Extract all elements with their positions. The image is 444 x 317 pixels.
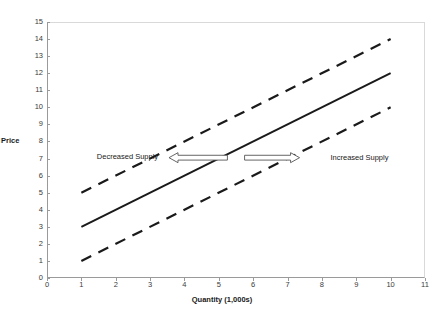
y-tick-label: 12 [21,69,43,77]
x-tick-mark [116,278,117,281]
x-axis-tick-labels: 01234567891011 [47,281,425,295]
y-tick-mark [47,107,50,108]
x-tick-label: 0 [35,281,59,289]
x-tick-mark [356,278,357,281]
supply-curve-original-supply [81,73,390,227]
x-tick-mark [150,278,151,281]
y-tick-mark [47,73,50,74]
y-tick-label: 15 [21,18,43,26]
x-tick-mark [391,278,392,281]
y-tick-label: 2 [21,240,43,248]
x-tick-label: 4 [172,281,196,289]
y-tick-mark [47,227,50,228]
x-tick-label: 11 [413,281,437,289]
y-tick-label: 10 [21,104,43,112]
x-tick-mark [47,278,48,281]
plot-area: Decreased SupplyIncreased Supply [47,22,425,278]
y-axis-title: Price [1,137,19,145]
y-tick-mark [47,141,50,142]
x-tick-label: 9 [344,281,368,289]
y-tick-mark [47,176,50,177]
y-tick-label: 8 [21,138,43,146]
y-tick-mark [47,261,50,262]
increased-supply-label: Increased Supply [331,154,389,162]
y-tick-label: 7 [21,155,43,163]
x-tick-label: 8 [310,281,334,289]
y-tick-mark [47,210,50,211]
x-tick-label: 1 [69,281,93,289]
y-tick-mark [47,90,50,91]
y-tick-label: 9 [21,121,43,129]
x-tick-mark [219,278,220,281]
y-tick-mark [47,244,50,245]
x-tick-label: 3 [138,281,162,289]
y-tick-mark [47,159,50,160]
supply-curve-decreased-supply [81,39,390,193]
x-tick-mark [81,278,82,281]
y-tick-label: 14 [21,35,43,43]
x-tick-label: 2 [104,281,128,289]
x-axis-title: Quantity (1,000s) [0,296,444,304]
y-tick-label: 5 [21,189,43,197]
x-tick-label: 5 [207,281,231,289]
x-tick-label: 7 [276,281,300,289]
y-tick-mark [47,193,50,194]
chart-screenshot: ... 0123456789101112131415 0123456789101… [0,0,444,317]
x-tick-mark [322,278,323,281]
decreased-supply-label: Decreased Supply [97,153,158,161]
x-tick-label: 10 [379,281,403,289]
x-tick-mark [184,278,185,281]
y-tick-label: 13 [21,52,43,60]
y-tick-label: 11 [21,87,43,95]
right-shift-arrow [245,153,300,163]
x-tick-mark [425,278,426,281]
supply-curve-increased-supply [81,107,390,261]
y-tick-label: 3 [21,223,43,231]
y-tick-label: 1 [21,257,43,265]
y-tick-mark [47,39,50,40]
x-tick-mark [253,278,254,281]
y-tick-mark [47,22,50,23]
x-tick-mark [288,278,289,281]
supply-curves [47,22,425,278]
y-axis-tick-labels: 0123456789101112131415 [17,22,43,278]
y-tick-mark [47,56,50,57]
y-tick-label: 4 [21,206,43,214]
left-shift-arrow [169,153,227,163]
y-tick-mark [47,124,50,125]
x-tick-label: 6 [241,281,265,289]
y-tick-label: 6 [21,172,43,180]
